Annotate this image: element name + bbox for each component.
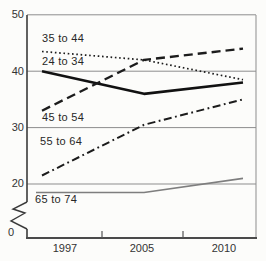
x-tick-label-2005: 2005	[120, 243, 164, 254]
series-label-35-to-44: 35 to 44	[42, 33, 84, 44]
series-label-24-to-34: 24 to 34	[42, 56, 84, 67]
y-axis-break-icon	[11, 202, 27, 229]
plot-canvas	[0, 0, 266, 261]
series-line-65-to-74	[36, 178, 243, 192]
y-tick-label-40: 40	[0, 66, 24, 77]
y-tick-label-0: 0	[0, 227, 14, 238]
y-tick-label-30: 30	[0, 122, 24, 133]
x-tick-label-1997: 1997	[43, 243, 87, 254]
series-line-24-to-34	[42, 71, 243, 94]
series-label-45-to-54: 45 to 54	[42, 112, 84, 123]
age-group-line-chart: 35 to 44 24 to 34 45 to 54 55 to 64 65 t…	[0, 0, 266, 261]
y-tick-label-50: 50	[0, 9, 24, 20]
x-tick-label-2010: 2010	[202, 243, 246, 254]
y-tick-label-20: 20	[0, 178, 24, 189]
series-label-65-to-74: 65 to 74	[35, 194, 77, 205]
series-label-55-to-64: 55 to 64	[40, 136, 82, 147]
